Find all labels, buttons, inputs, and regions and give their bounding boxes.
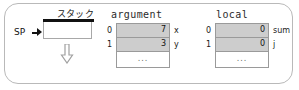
local-value-0: 0 (260, 25, 265, 34)
argument-cell-ellipsis: ... (117, 52, 169, 67)
argument-label-1: y (174, 40, 179, 49)
local-label-0: sum (273, 26, 290, 35)
stack-frame-box (43, 22, 92, 39)
local-ellipsis: ... (216, 54, 268, 63)
right-triangle-arrow-icon (37, 28, 42, 36)
argument-row-index-1: 1 (104, 40, 112, 49)
argument-cell-0: 7 (117, 24, 169, 38)
local-cell-1: 0 (216, 38, 268, 52)
argument-label-0: x (174, 26, 179, 35)
argument-ellipsis: ... (117, 54, 169, 63)
local-cell-0: 0 (216, 24, 268, 38)
argument-value-1: 3 (161, 39, 166, 48)
local-label-1: j (273, 40, 275, 49)
segment-title-argument: argument (111, 9, 162, 20)
argument-row-index-0: 0 (104, 26, 112, 35)
local-value-1: 0 (260, 39, 265, 48)
stack-memory-diagram: スタック SP argument 0 1 7 3 ... x y local 0… (0, 0, 299, 90)
down-arrow-icon (60, 44, 74, 64)
stack-pointer-label: SP (14, 27, 25, 37)
argument-cell-1: 3 (117, 38, 169, 52)
local-segment-table: 0 0 ... (215, 23, 269, 68)
segment-title-local: local (216, 9, 248, 20)
local-row-index-0: 0 (203, 26, 211, 35)
local-row-index-1: 1 (203, 40, 211, 49)
argument-segment-table: 7 3 ... (116, 23, 170, 68)
argument-value-0: 7 (161, 25, 166, 34)
local-cell-ellipsis: ... (216, 52, 268, 67)
